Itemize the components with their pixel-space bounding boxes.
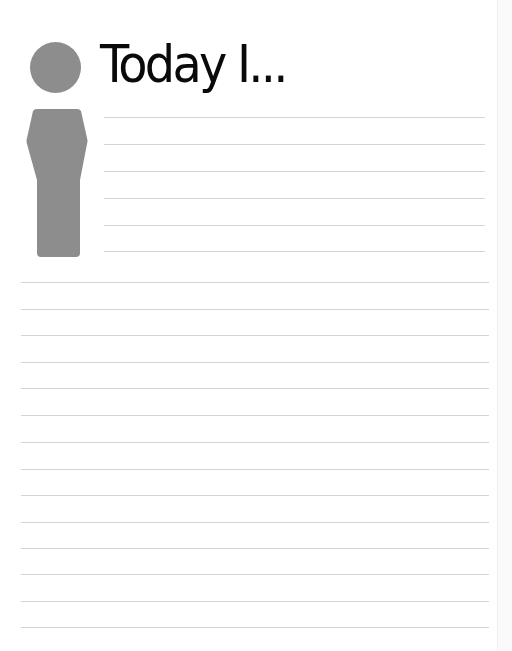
full-writing-line [21,362,489,363]
person-body-icon [25,108,89,258]
full-writing-line [21,282,489,283]
full-writing-line [21,388,489,389]
full-writing-line [21,415,489,416]
full-writing-line [21,627,489,628]
short-writing-line [104,171,485,172]
page-title: Today I... [100,34,286,94]
full-writing-line [21,335,489,336]
person-head-icon [30,42,81,93]
full-writing-line [21,522,489,523]
full-writing-line [21,574,489,575]
short-writing-line [104,198,485,199]
full-writing-line [21,601,489,602]
short-writing-line [104,251,485,252]
full-writing-line [21,495,489,496]
full-writing-line [21,469,489,470]
full-writing-line [21,442,489,443]
short-writing-line [104,225,485,226]
page-edge [497,0,512,651]
full-writing-line [21,548,489,549]
full-writing-line [21,309,489,310]
short-writing-line [104,117,485,118]
short-writing-line [104,144,485,145]
